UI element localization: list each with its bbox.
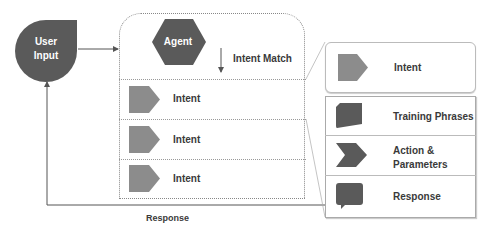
zoom-guide-top bbox=[306, 42, 325, 79]
list-divider bbox=[325, 175, 476, 176]
response-item-label: Response bbox=[393, 191, 441, 202]
action-parameters-line2: Parameters bbox=[393, 158, 447, 172]
intent-pentagon-icon bbox=[338, 54, 368, 81]
intent-detail-header-label: Intent bbox=[394, 62, 421, 73]
row-divider bbox=[119, 159, 306, 160]
chevron-icon bbox=[336, 143, 367, 167]
intent-match-label: Intent Match bbox=[233, 53, 292, 64]
user-input-label-line1: User bbox=[15, 35, 77, 49]
document-icon bbox=[336, 103, 363, 129]
user-input-label-line2: Input bbox=[15, 49, 77, 63]
action-parameters-line1: Action & bbox=[393, 144, 447, 158]
row-divider bbox=[119, 79, 306, 80]
user-input-label: User Input bbox=[15, 35, 77, 63]
action-parameters-label: Action & Parameters bbox=[393, 144, 447, 172]
intent-label: Intent bbox=[173, 173, 200, 184]
intent-pentagon-icon bbox=[129, 165, 160, 192]
list-divider bbox=[325, 135, 476, 136]
agent-label: Agent bbox=[152, 36, 204, 47]
training-phrases-label: Training Phrases bbox=[393, 111, 474, 122]
intent-label: Intent bbox=[173, 134, 200, 145]
intent-label: Intent bbox=[173, 93, 200, 104]
speech-bubble-icon bbox=[336, 183, 363, 210]
row-divider bbox=[119, 119, 306, 120]
intent-pentagon-icon bbox=[129, 86, 160, 113]
intent-pentagon-icon bbox=[129, 126, 160, 153]
zoom-guide-bottom bbox=[306, 119, 325, 217]
response-feedback-label: Response bbox=[146, 213, 189, 223]
